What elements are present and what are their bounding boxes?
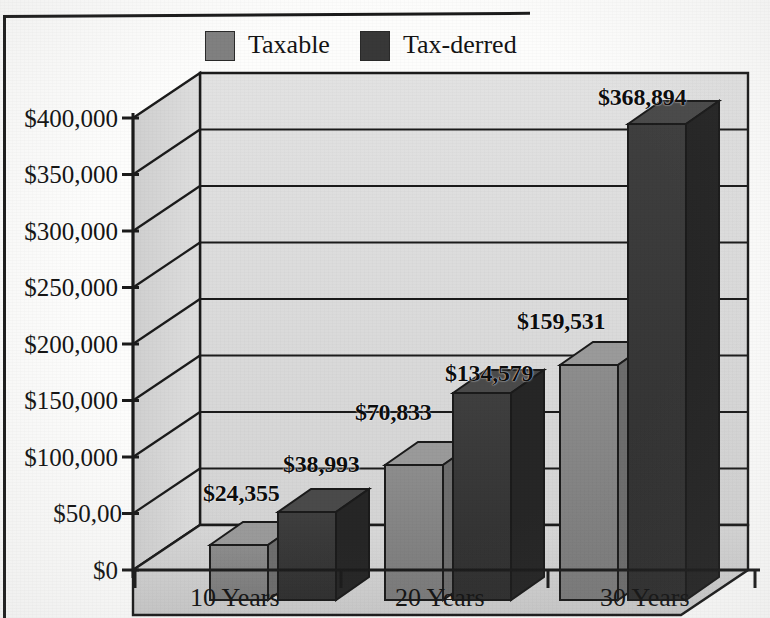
legend-label-taxable: Taxable — [248, 32, 330, 58]
y-tick-label-150000: $150,000 — [0, 388, 118, 413]
bar-tax-derred-20-years — [453, 370, 544, 600]
data-label-taxable-20-years: $70,833 — [355, 400, 432, 424]
y-tick-label-350000: $350,000 — [0, 162, 118, 187]
chart-screenshot: Taxable Tax-derred $400,000 $350,000 $30… — [0, 0, 770, 618]
data-label-taxable-30-years: $159,531 — [517, 309, 605, 333]
y-tick-label-200000: $200,000 — [0, 332, 118, 357]
y-tick-label-100000: $100,000 — [0, 445, 118, 470]
data-label-taxable-10-years: $24,355 — [203, 481, 280, 505]
x-tick-label-10-years: 10 Years — [190, 585, 280, 611]
data-label-tax-derred-20-years: $134,579 — [445, 361, 533, 385]
data-label-tax-derred-10-years: $38,993 — [283, 452, 360, 476]
legend-swatch-tax-derred — [360, 31, 390, 61]
legend-swatch-taxable — [205, 31, 235, 61]
y-tick-label-300000: $300,000 — [0, 219, 118, 244]
data-label-tax-derred-30-years: $368,894 — [598, 85, 686, 109]
bar-tax-derred-30-years — [628, 101, 719, 600]
legend-label-tax-derred: Tax-derred — [403, 32, 517, 58]
y-tick-label-0: $0 — [0, 558, 118, 583]
x-tick-label-30-years: 30 Years — [600, 585, 690, 611]
y-tick-label-400000: $400,000 — [0, 106, 118, 131]
x-tick-label-20-years: 20 Years — [395, 585, 485, 611]
y-tick-label-50000: $50,00 — [0, 501, 122, 526]
y-tick-label-250000: $250,000 — [0, 275, 118, 300]
bar-tax-derred-10-years — [278, 489, 369, 600]
